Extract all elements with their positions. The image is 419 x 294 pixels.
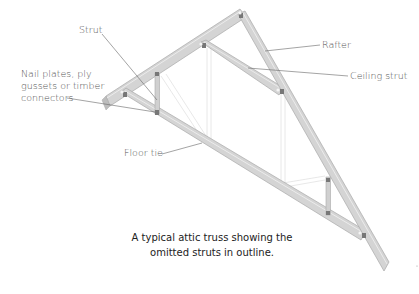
connector-left-heel <box>123 92 127 97</box>
caption-line-2: omitted struts in outline. <box>150 247 274 258</box>
left-vertical-strut <box>155 73 160 114</box>
label-strut: Strut <box>79 24 103 35</box>
connector-ceiling-right <box>280 89 284 94</box>
label-rafter: Rafter <box>322 39 351 50</box>
connector-left-strut-top <box>155 72 159 76</box>
label-nail-plates-3: connectors <box>21 92 74 103</box>
label-nail-plates-1: Nail plates, ply <box>21 68 92 79</box>
stray-dot <box>416 265 417 266</box>
label-floor-tie: Floor tie <box>124 147 163 158</box>
label-ceiling-strut: Ceiling strut <box>350 70 408 81</box>
connector-right-heel <box>362 233 366 238</box>
connector-ceiling-left <box>202 43 206 48</box>
leader-rafter <box>265 45 320 51</box>
attic-truss-diagram: Strut Rafter Ceiling strut Nail plates, … <box>0 0 419 294</box>
connector-right-strut-top <box>326 178 330 182</box>
connector-right-strut-bottom <box>326 211 330 215</box>
caption-line-1: A typical attic truss showing the <box>132 232 293 243</box>
right-vertical-strut <box>326 177 331 215</box>
label-nail-plates-2: gussets or timber <box>21 80 104 91</box>
connector-left-strut-bottom <box>155 110 159 115</box>
leader-floor-tie <box>162 143 202 154</box>
